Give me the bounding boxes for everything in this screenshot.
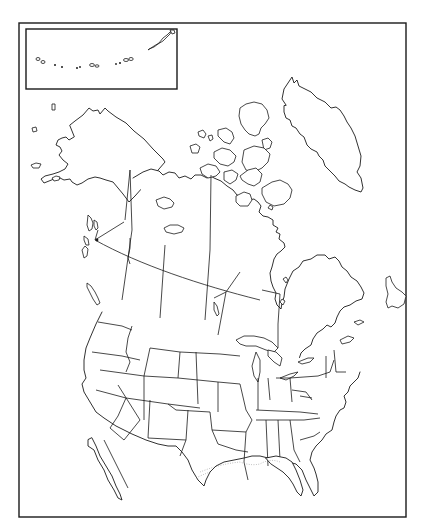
mexico-baja	[88, 438, 128, 500]
aleutian-islands-inset	[26, 29, 177, 89]
north-america-outline-map	[0, 0, 423, 530]
greenland	[282, 77, 363, 192]
bc-coastal-islands	[82, 215, 100, 305]
